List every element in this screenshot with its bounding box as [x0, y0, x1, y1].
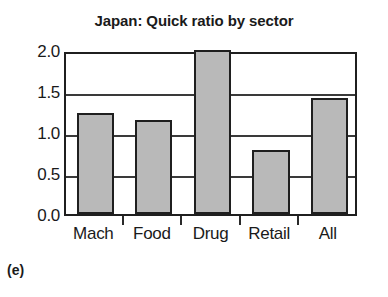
y-tick-label-1.0: 1.0	[2, 124, 60, 144]
figure: Japan: Quick ratio by sector 0.00.51.01.…	[0, 0, 388, 297]
x-tick-mark	[122, 216, 124, 225]
bar-food[interactable]	[135, 120, 172, 214]
figure-caption: (e)	[7, 262, 24, 278]
x-tick-mark	[239, 216, 241, 225]
bar-retail[interactable]	[252, 150, 289, 214]
x-tick-mark	[180, 216, 182, 225]
y-tick-label-1.5: 1.5	[2, 83, 60, 103]
x-tick-label-food: Food	[133, 224, 171, 244]
bar-mach[interactable]	[77, 113, 114, 214]
chart-title: Japan: Quick ratio by sector	[0, 12, 388, 29]
y-axis-tick-labels: 0.00.51.01.52.0	[0, 52, 60, 216]
x-tick-label-all: All	[319, 224, 337, 244]
y-tick-label-2.0: 2.0	[2, 42, 60, 62]
y-tick-label-0.0: 0.0	[2, 206, 60, 226]
x-tick-mark	[297, 216, 299, 225]
bar-drug[interactable]	[194, 50, 231, 214]
x-tick-label-retail: Retail	[248, 224, 290, 244]
plot-area	[64, 52, 357, 216]
y-tick-label-0.5: 0.5	[2, 165, 60, 185]
bar-all[interactable]	[311, 98, 348, 214]
x-tick-label-mach: Mach	[73, 224, 113, 244]
x-tick-label-drug: Drug	[193, 224, 229, 244]
